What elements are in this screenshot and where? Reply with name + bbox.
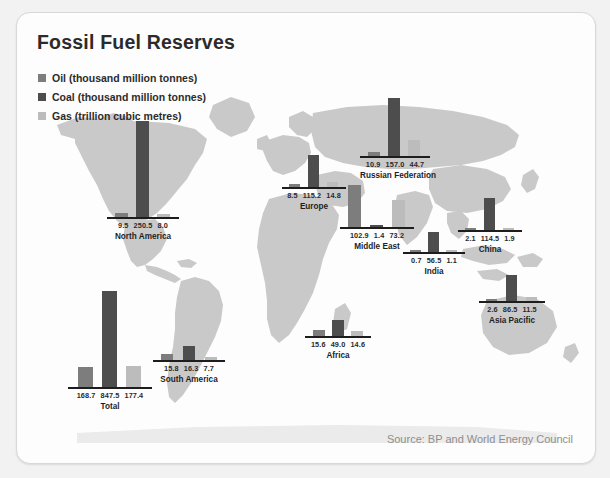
value-oil: 15.8: [164, 364, 179, 373]
value-coal: 1.4: [374, 231, 384, 240]
bar-gas: [408, 140, 420, 156]
value-oil: 2.1: [465, 234, 475, 243]
value-gas: 14.6: [350, 340, 365, 349]
value-labels: 15.6 49.0 14.6: [305, 340, 371, 349]
legend-swatch-gas: [38, 112, 46, 120]
bar-coal: [388, 98, 400, 156]
group-name: India: [403, 267, 465, 277]
legend-swatch-oil: [38, 74, 46, 82]
value-oil: 0.7: [411, 256, 421, 265]
legend-label-coal: Coal (thousand million tonnes): [52, 91, 206, 103]
bar-group-south-america: 15.8 16.3 7.7 South America: [153, 346, 225, 360]
bar-coal: [428, 232, 439, 252]
group-name-line1: Russian Federation: [360, 171, 436, 180]
group-name: North America: [107, 232, 179, 242]
value-coal: 86.5: [503, 305, 518, 314]
bar-group-africa: 15.6 49.0 14.6 Africa: [305, 320, 371, 336]
group-baseline: [360, 156, 430, 158]
value-coal: 115.2: [303, 191, 321, 200]
chart-legend: Oil (thousand million tonnes) Coal (thou…: [38, 70, 206, 127]
group-baseline: [153, 360, 225, 362]
value-oil: 168.7: [77, 391, 96, 400]
bar-gas: [126, 366, 141, 387]
value-labels: 2.1 114.5 1.9: [458, 234, 522, 243]
group-name: Asia Pacific: [479, 316, 545, 326]
group-name: Europe: [282, 202, 346, 212]
bar-oil: [78, 367, 93, 387]
bar-coal: [136, 121, 149, 217]
value-labels: 15.8 16.3 7.7: [153, 364, 225, 373]
group-baseline: [340, 227, 414, 229]
value-gas: 1.9: [504, 234, 514, 243]
bar-group-asia-pacific: 2.6 86.5 11.5 Asia Pacific: [479, 275, 545, 301]
value-coal: 847.5: [101, 391, 120, 400]
group-baseline: [458, 230, 522, 232]
bar-group-middle-east: 102.9 1.4 73.2 Middle East: [340, 185, 414, 227]
group-name: Total: [68, 402, 152, 412]
value-oil: 8.5: [287, 191, 297, 200]
bar-coal: [308, 155, 319, 187]
bar-coal: [506, 275, 517, 301]
source-attribution: Source: BP and World Energy Council: [387, 433, 573, 445]
value-gas: 11.5: [523, 305, 537, 314]
group-name: South America: [153, 375, 225, 385]
group-baseline: [305, 336, 371, 338]
value-labels: 10.9 157.0 44.7: [360, 160, 430, 169]
bar-coal: [183, 346, 195, 360]
value-gas: 73.2: [389, 231, 404, 240]
bar-coal: [332, 320, 344, 336]
bar-group-india: 0.7 56.5 1.1 India: [403, 232, 465, 252]
value-coal: 16.3: [184, 364, 199, 373]
value-coal: 56.5: [427, 256, 442, 265]
value-labels: 168.7 847.5 177.4: [68, 391, 152, 400]
chart-card: Fossil Fuel Reserves Oil (thousand milli…: [16, 12, 596, 464]
value-oil: 9.5: [118, 221, 128, 230]
value-gas: 44.7: [410, 160, 425, 169]
value-labels: 9.5 250.5 8.0: [107, 221, 179, 230]
page-title: Fossil Fuel Reserves: [37, 31, 235, 54]
group-name: Russian Federation: [360, 171, 430, 181]
group-baseline: [107, 217, 179, 219]
value-gas: 14.8: [326, 191, 341, 200]
group-baseline: [479, 301, 545, 303]
bar-coal: [102, 291, 117, 387]
group-baseline: [403, 252, 465, 254]
group-name: China: [458, 245, 522, 255]
value-oil: 10.9: [366, 160, 381, 169]
group-name: Africa: [305, 351, 371, 361]
value-gas: 1.1: [446, 256, 456, 265]
legend-swatch-coal: [38, 93, 46, 101]
value-gas: 7.7: [204, 364, 214, 373]
legend-item-coal: Coal (thousand million tonnes): [38, 89, 206, 105]
value-labels: 2.6 86.5 11.5: [479, 305, 545, 314]
value-coal: 250.5: [134, 221, 153, 230]
value-labels: 8.5 115.2 14.8: [282, 191, 346, 200]
value-coal: 49.0: [331, 340, 346, 349]
legend-label-oil: Oil (thousand million tonnes): [52, 72, 197, 84]
value-labels: 0.7 56.5 1.1: [403, 256, 465, 265]
legend-item-oil: Oil (thousand million tonnes): [38, 70, 206, 86]
value-oil: 102.9: [350, 231, 369, 240]
value-oil: 15.6: [311, 340, 326, 349]
group-baseline: [282, 187, 346, 189]
value-gas: 8.0: [158, 221, 168, 230]
value-coal: 114.5: [481, 234, 499, 243]
bar-group-china: 2.1 114.5 1.9 China: [458, 198, 522, 230]
bar-gas: [392, 200, 405, 227]
value-coal: 157.0: [386, 160, 405, 169]
screenshot-canvas: Fossil Fuel Reserves Oil (thousand milli…: [0, 0, 610, 478]
bar-group-north-america: 9.5 250.5 8.0 North America: [107, 121, 179, 217]
bar-group-europe: 8.5 115.2 14.8 Europe: [282, 155, 346, 187]
bar-group-russian-federation: 10.9 157.0 44.7 Russian Federation: [360, 98, 430, 156]
bar-oil: [348, 185, 361, 227]
bar-group-total: 168.7 847.5 177.4 Total: [68, 291, 152, 387]
value-gas: 177.4: [125, 391, 144, 400]
group-baseline: [68, 387, 152, 389]
value-oil: 2.6: [487, 305, 497, 314]
bar-coal: [484, 198, 495, 230]
